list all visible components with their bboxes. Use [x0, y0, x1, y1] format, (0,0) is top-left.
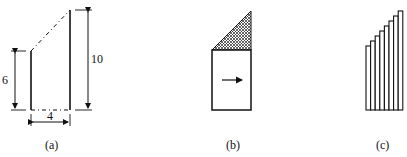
label-4: 4 [47, 109, 53, 124]
label-6: 6 [2, 73, 8, 88]
figure-b [212, 11, 251, 110]
dashed-top [31, 10, 70, 51]
caption-c: (c) [376, 138, 389, 153]
hatched-triangle [212, 11, 251, 50]
caption-a: (a) [45, 138, 58, 153]
caption-b: (b) [226, 138, 240, 153]
label-10: 10 [91, 52, 103, 67]
figure-c [366, 11, 403, 110]
diagram-canvas [0, 0, 407, 157]
